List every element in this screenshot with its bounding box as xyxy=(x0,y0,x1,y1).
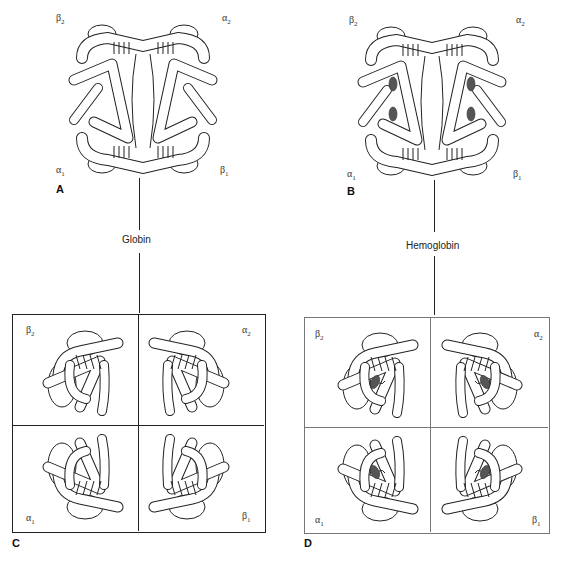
label-beta1: β1 xyxy=(513,168,522,182)
connector-line-top xyxy=(139,178,140,230)
subunit-alpha2-d xyxy=(435,327,525,422)
globin-chain xyxy=(447,333,517,413)
heme-group xyxy=(389,77,397,91)
helix-segment xyxy=(102,439,105,485)
subunit-alpha1-d xyxy=(335,432,425,527)
grid-divider-vertical xyxy=(138,314,139,531)
label-alpha1: α1 xyxy=(26,512,35,526)
globin-chain xyxy=(447,441,517,521)
label-beta1: β1 xyxy=(220,164,229,178)
connector-line-bottom xyxy=(434,256,435,315)
label-alpha2: α2 xyxy=(222,12,231,26)
subunit-beta2-d xyxy=(335,327,425,422)
panel-letter-b: B xyxy=(347,185,355,197)
globin-chain xyxy=(343,441,413,521)
connector-label-globin: Globin xyxy=(120,234,153,245)
label-alpha2: α2 xyxy=(534,328,543,342)
helix-segment xyxy=(460,367,463,413)
panel-letter-c: C xyxy=(12,537,20,549)
helix-segment xyxy=(167,365,170,411)
subunit-beta2-c xyxy=(40,325,130,420)
label-alpha1: α1 xyxy=(347,168,356,182)
globin-chain xyxy=(343,333,413,413)
helix-segment xyxy=(74,88,98,120)
helix-segment xyxy=(397,367,400,413)
tetramer-diagram-a xyxy=(68,18,218,178)
label-beta2: β2 xyxy=(26,324,35,338)
subunit-alpha2-c xyxy=(142,325,232,420)
heme-group xyxy=(467,107,475,121)
panel-letter-a: A xyxy=(56,183,64,195)
helix-segment xyxy=(460,441,463,487)
tetramer-diagram-b xyxy=(357,20,507,180)
label-beta1: β1 xyxy=(532,514,541,528)
panel-letter-d: D xyxy=(304,537,312,549)
helix-segment xyxy=(363,90,387,122)
subunit-beta1-c xyxy=(142,430,232,525)
globin-chain xyxy=(48,439,118,519)
subunit-alpha1-c xyxy=(40,430,130,525)
helix-segment xyxy=(82,38,204,58)
helix-segment xyxy=(188,88,212,120)
connector-line-bottom xyxy=(139,253,140,313)
label-alpha1: α1 xyxy=(315,514,324,528)
label-beta1: β1 xyxy=(242,510,251,524)
label-alpha2: α2 xyxy=(516,14,525,28)
grid-divider-horizontal xyxy=(304,427,548,428)
connector-label-hemoglobin: Hemoglobin xyxy=(404,240,461,251)
globin-chain xyxy=(154,439,224,519)
helix-segment xyxy=(167,439,170,485)
helix-segment xyxy=(371,40,493,60)
helix-segment xyxy=(102,365,105,411)
label-alpha1: α1 xyxy=(56,164,65,178)
subunit-beta1-d xyxy=(435,432,525,527)
heme-group xyxy=(389,107,397,121)
helix-segment xyxy=(397,441,400,487)
grid-divider-vertical xyxy=(430,317,431,532)
heme-group xyxy=(467,77,475,91)
globin-chain xyxy=(48,331,118,411)
helix-segment xyxy=(477,90,501,122)
grid-divider-horizontal xyxy=(12,425,264,426)
label-alpha2: α2 xyxy=(242,324,251,338)
connector-line-top xyxy=(434,180,435,232)
label-beta2: β2 xyxy=(56,12,65,26)
globin-chain xyxy=(154,331,224,411)
label-beta2: β2 xyxy=(315,328,324,342)
